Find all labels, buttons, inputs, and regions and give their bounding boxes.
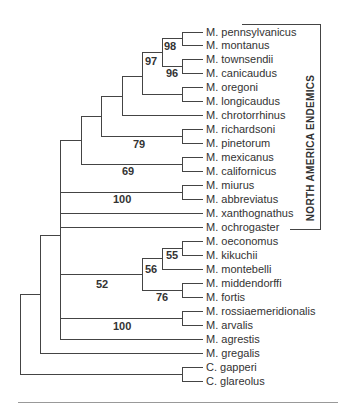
- taxon-label: M. townsendii: [206, 53, 273, 65]
- bootstrap-value: 79: [133, 138, 145, 150]
- taxon-label: M. montanus: [206, 39, 270, 51]
- bootstrap-value: 100: [113, 193, 131, 205]
- taxon-label: M. fortis: [206, 291, 245, 303]
- taxon-label: M. rossiaemeridionalis: [206, 305, 315, 317]
- taxon-label: M. chrotorrhinus: [206, 109, 285, 121]
- taxon-label: M. ochrogaster: [206, 221, 279, 233]
- taxon-label: M. californicus: [206, 165, 276, 177]
- taxon-label: C. glareolus: [206, 375, 265, 387]
- taxon-label: M. pennsylvanicus: [206, 26, 297, 38]
- north-america-endemics-label: NORTH AMERICA ENDEMICS: [305, 75, 316, 221]
- taxon-label: M. abbreviatus: [206, 193, 278, 205]
- taxon-label: M. kikuchii: [206, 249, 257, 261]
- taxon-label: M. montebelli: [206, 263, 271, 275]
- bootstrap-value: 69: [122, 165, 134, 177]
- bootstrap-value: 56: [145, 263, 157, 275]
- bootstrap-value: 96: [166, 67, 178, 79]
- bootstrap-value: 97: [145, 55, 157, 67]
- taxon-label: M. gregalis: [206, 347, 260, 359]
- taxon-label: M. longicaudus: [206, 95, 280, 107]
- taxon-label: M. canicaudus: [206, 67, 277, 79]
- taxon-label: M. xanthognathus: [206, 207, 293, 219]
- taxon-label: M. mexicanus: [206, 151, 274, 163]
- bottom-rule-divider: [18, 402, 338, 403]
- bootstrap-value: 76: [156, 291, 168, 303]
- taxon-label: M. miurus: [206, 179, 254, 191]
- bootstrap-value: 98: [164, 40, 176, 52]
- taxon-label: C. gapperi: [206, 361, 257, 373]
- taxon-label: M. oregoni: [206, 81, 258, 93]
- taxon-label: M. agrestis: [206, 333, 260, 345]
- taxon-label: M. richardsoni: [206, 123, 275, 135]
- bootstrap-value: 100: [113, 320, 131, 332]
- bootstrap-value: 52: [96, 278, 108, 290]
- taxon-label: M. arvalis: [206, 319, 253, 331]
- bootstrap-value: 55: [166, 249, 178, 261]
- taxon-label: M. middendorffi: [206, 277, 282, 289]
- taxon-label: M. oeconomus: [206, 235, 278, 247]
- taxon-label: M. pinetorum: [206, 137, 270, 149]
